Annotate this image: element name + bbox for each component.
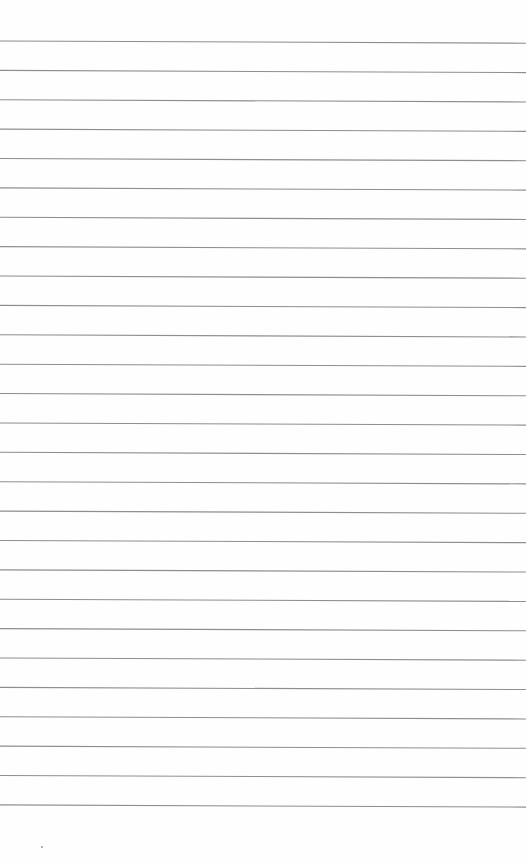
- ruled-line: [0, 217, 526, 219]
- ruled-line: [0, 188, 526, 190]
- ruled-line: [0, 629, 526, 631]
- ruled-line: [0, 717, 526, 719]
- ruled-line: [0, 335, 526, 337]
- ruled-line: [0, 452, 526, 454]
- ruled-line: [0, 394, 526, 396]
- ruled-line: [0, 482, 526, 484]
- ruled-line: [0, 276, 526, 278]
- ruled-line: [0, 570, 526, 572]
- ruled-line: [0, 364, 526, 366]
- ruled-line: [0, 511, 526, 513]
- ruled-line: [0, 159, 526, 161]
- ruled-line: [0, 599, 526, 601]
- ruled-line: [0, 776, 526, 778]
- ruled-lines: [0, 0, 528, 864]
- ruled-line: [0, 247, 526, 249]
- ruled-line: [0, 305, 526, 307]
- ruled-paper-page: [0, 0, 528, 864]
- ruled-line: [0, 70, 526, 72]
- ruled-line: [0, 423, 526, 425]
- ruled-line: [0, 41, 526, 43]
- ruled-line: [0, 805, 526, 807]
- ruled-line: [0, 540, 526, 542]
- ruled-line: [0, 129, 526, 131]
- ruled-line: [0, 100, 526, 102]
- ruled-line: [0, 746, 526, 748]
- ruled-line: [0, 658, 526, 660]
- ruled-line: [0, 687, 526, 689]
- paper-speck: [41, 846, 43, 848]
